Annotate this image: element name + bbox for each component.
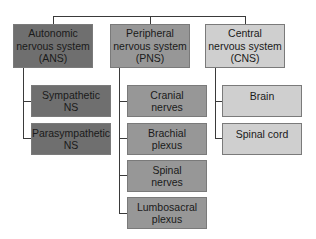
cranial-nerves-box: Cranial nerves bbox=[127, 85, 207, 117]
ans-branch-1 bbox=[23, 101, 31, 102]
cns-up-connector bbox=[245, 16, 246, 24]
pns-branch-3 bbox=[119, 175, 127, 176]
pns-trunk bbox=[119, 68, 120, 213]
sympathetic-ns-box: Sympathetic NS bbox=[31, 85, 111, 117]
lumbosacral-plexus-box: Lumbosacral plexus bbox=[127, 197, 207, 229]
ans-branch-2 bbox=[23, 138, 31, 139]
cns-branch-1 bbox=[215, 101, 222, 102]
pns-up-connector bbox=[150, 16, 151, 24]
spinal-nerves-box: Spinal nerves bbox=[127, 160, 207, 192]
cns-branch-2 bbox=[215, 138, 222, 139]
pns-branch-2 bbox=[119, 138, 127, 139]
pns-branch-1 bbox=[119, 101, 127, 102]
spinal-cord-box: Spinal cord bbox=[222, 123, 302, 155]
pns-box: Peripheral nervous system (PNS) bbox=[110, 24, 190, 68]
ans-box: Autonomic nervous system (ANS) bbox=[13, 24, 93, 68]
brain-box: Brain bbox=[222, 85, 302, 117]
ans-up-connector bbox=[53, 16, 54, 24]
ans-trunk bbox=[23, 68, 24, 139]
cns-box: Central nervous system (CNS) bbox=[205, 24, 285, 68]
pns-branch-4 bbox=[119, 213, 127, 214]
cns-trunk bbox=[215, 68, 216, 139]
brachial-plexus-box: Brachial plexus bbox=[127, 123, 207, 155]
parasympathetic-ns-box: Parasympathetic NS bbox=[31, 123, 111, 155]
